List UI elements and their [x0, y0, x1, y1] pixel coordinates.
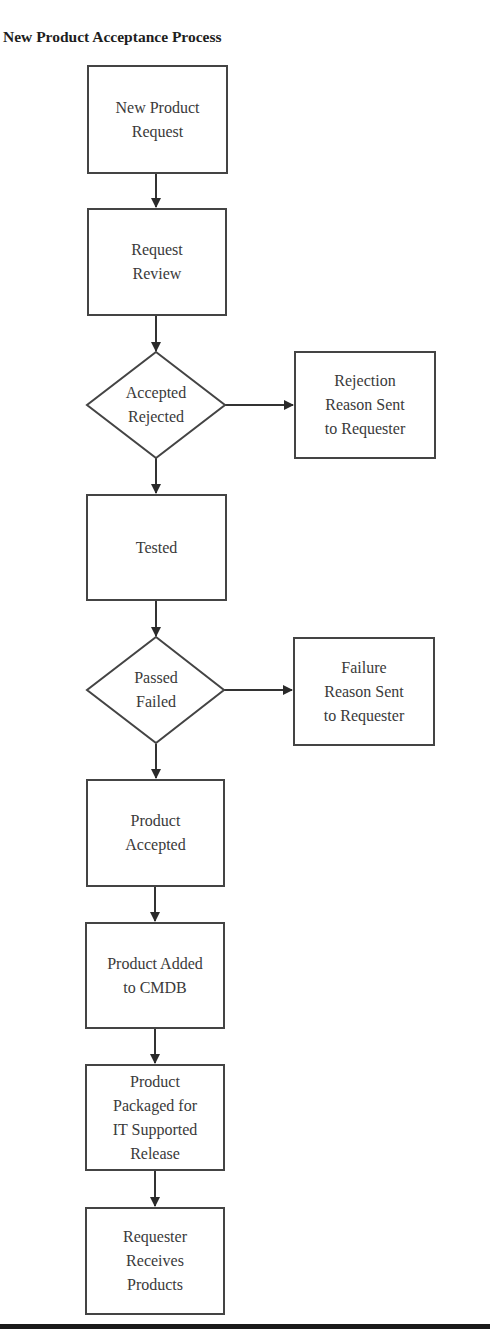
node-label-line: Review	[131, 262, 183, 286]
node-label-line: Reason Sent	[324, 680, 404, 704]
node-label-line: Product	[125, 809, 185, 833]
node-label-line: to CMDB	[107, 976, 203, 1000]
process-requester-receives-products: Requester Receives Products	[85, 1207, 225, 1315]
node-label-line: Failed	[134, 690, 178, 714]
node-label-line: Reason Sent	[325, 393, 405, 417]
node-label-line: Failure	[324, 656, 404, 680]
process-product-packaged: Product Packaged for IT Supported Releas…	[85, 1064, 225, 1171]
decision-label-accepted-rejected: Accepted Rejected	[96, 370, 216, 440]
process-rejection-reason-sent: Rejection Reason Sent to Requester	[294, 351, 436, 459]
process-tested: Tested	[86, 494, 227, 601]
decision-label-passed-failed: Passed Failed	[96, 655, 216, 725]
node-label-line: Packaged for	[113, 1094, 198, 1118]
node-label-line: Accepted	[126, 381, 186, 405]
process-product-added-to-cmdb: Product Added to CMDB	[85, 922, 225, 1029]
node-label-line: Request	[116, 120, 200, 144]
node-label-line: Tested	[136, 536, 178, 560]
node-label-line: Product Added	[107, 952, 203, 976]
node-label-line: Product	[113, 1070, 198, 1094]
node-label-line: Rejected	[126, 405, 186, 429]
node-label-line: Passed	[134, 666, 178, 690]
node-label-line: Products	[123, 1273, 187, 1297]
process-request-review: Request Review	[87, 208, 227, 316]
node-label-line: Receives	[123, 1249, 187, 1273]
node-label-line: to Requester	[325, 417, 405, 441]
node-label-line: Requester	[123, 1225, 187, 1249]
process-failure-reason-sent: Failure Reason Sent to Requester	[293, 637, 435, 746]
node-label-line: IT Supported	[113, 1118, 198, 1142]
node-label-line: Request	[131, 238, 183, 262]
node-label-line: Release	[113, 1142, 198, 1166]
process-product-accepted: Product Accepted	[86, 779, 225, 887]
bottom-rule-divider	[0, 1324, 490, 1329]
process-new-product-request: New Product Request	[87, 65, 228, 174]
node-label-line: Rejection	[325, 369, 405, 393]
node-label-line: to Requester	[324, 704, 404, 728]
node-label-line: Accepted	[125, 833, 185, 857]
node-label-line: New Product	[116, 96, 200, 120]
